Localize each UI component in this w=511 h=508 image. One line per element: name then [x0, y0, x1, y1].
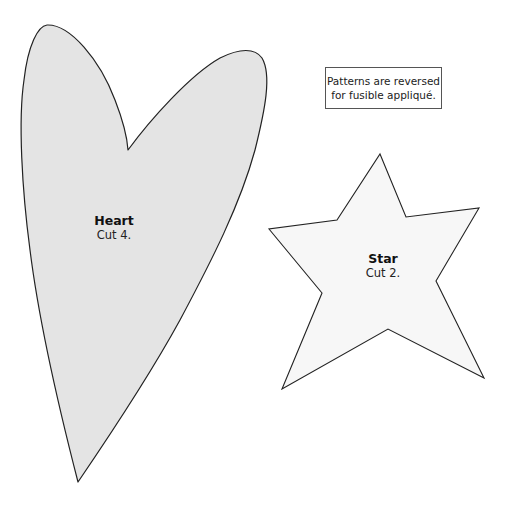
- star-title: Star: [366, 252, 400, 266]
- heart-instruction: Cut 4.: [94, 228, 134, 242]
- note-line-2: for fusible appliqué.: [331, 88, 436, 102]
- heart-pattern-shape: [21, 25, 267, 482]
- star-instruction: Cut 2.: [366, 266, 400, 280]
- heart-label: Heart Cut 4.: [94, 214, 134, 242]
- reversed-pattern-note: Patterns are reversed for fusible appliq…: [325, 67, 442, 109]
- note-line-1: Patterns are reversed: [327, 74, 440, 88]
- heart-title: Heart: [94, 214, 134, 228]
- star-label: Star Cut 2.: [366, 252, 400, 280]
